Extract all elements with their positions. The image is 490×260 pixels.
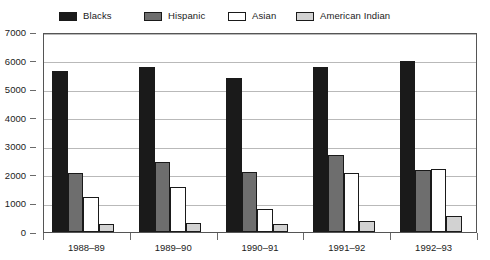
y-axis-label: 5000 (5, 85, 26, 95)
y-tick-0 (30, 233, 36, 234)
legend-label-hispanic: Hispanic (168, 11, 205, 21)
y-axis-label: 0 (21, 228, 26, 238)
x-axis-label: 1988–89 (43, 242, 130, 253)
legend-swatch-asian (228, 12, 246, 21)
x-tick-separator (217, 233, 218, 240)
bar-group (226, 34, 288, 232)
x-tick-separator (43, 233, 44, 240)
chart-legend: Blacks Hispanic Asian American Indian (0, 8, 490, 24)
legend-swatch-hispanic (144, 12, 162, 21)
legend-swatch-blacks (59, 12, 77, 21)
x-tick-separator (303, 233, 304, 240)
legend-label-asian: Asian (252, 11, 276, 21)
bar-group (313, 34, 375, 232)
bar (257, 209, 273, 232)
bar (344, 173, 360, 232)
bar (242, 172, 258, 232)
y-tick-5000 (30, 90, 36, 91)
y-axis-labels: 01000200030004000500060007000 (0, 33, 36, 233)
bar-group (52, 34, 114, 232)
bar (328, 155, 344, 232)
bar (139, 67, 155, 232)
bar (226, 78, 242, 232)
plot-frame (43, 33, 477, 233)
y-axis-label: 1000 (5, 199, 26, 209)
bar (273, 224, 289, 232)
x-axis-label: 1992–93 (390, 242, 477, 253)
x-tick-separator (477, 233, 478, 240)
y-tick-6000 (30, 61, 36, 62)
y-axis-label: 4000 (5, 114, 26, 124)
x-axis-label: 1989–90 (130, 242, 217, 253)
legend-swatch-american-indian (296, 12, 314, 21)
bar-group (139, 34, 201, 232)
legend-label-blacks: Blacks (83, 11, 112, 21)
x-axis: 1988–891989–901990–911991–921992–93 (43, 233, 477, 260)
bar (155, 162, 171, 232)
legend-item-hispanic: Hispanic (144, 8, 205, 24)
legend-item-blacks: Blacks (59, 8, 112, 24)
x-tick-separator (130, 233, 131, 240)
bar (83, 197, 99, 232)
bar (415, 170, 431, 232)
bar (400, 61, 416, 232)
x-axis-label: 1990–91 (217, 242, 304, 253)
x-axis-label: 1991–92 (303, 242, 390, 253)
bar (99, 224, 115, 232)
y-tick-4000 (30, 118, 36, 119)
bar (52, 71, 68, 232)
bar (170, 187, 186, 232)
bar (446, 216, 462, 232)
bar (431, 169, 447, 232)
legend-label-american-indian: American Indian (320, 11, 390, 21)
bar-chart: Blacks Hispanic Asian American Indian 01… (0, 0, 490, 260)
y-axis-label: 6000 (5, 57, 26, 67)
bar (359, 221, 375, 232)
legend-item-american-indian: American Indian (296, 8, 390, 24)
y-tick-3000 (30, 147, 36, 148)
x-tick-separator (390, 233, 391, 240)
y-tick-7000 (30, 33, 36, 34)
plot-area (44, 34, 476, 232)
bar-group (400, 34, 462, 232)
y-tick-1000 (30, 204, 36, 205)
legend-item-asian: Asian (228, 8, 276, 24)
bar (313, 67, 329, 232)
bar (68, 173, 84, 232)
bar (186, 223, 202, 232)
y-axis-label: 2000 (5, 171, 26, 181)
y-axis-label: 3000 (5, 142, 26, 152)
y-axis-label: 7000 (5, 28, 26, 38)
y-tick-2000 (30, 175, 36, 176)
